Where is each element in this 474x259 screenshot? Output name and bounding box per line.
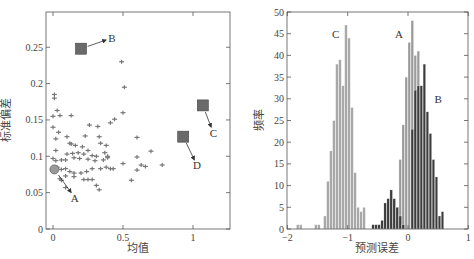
- bar-b: [435, 177, 438, 229]
- x-tick-label: 0: [406, 232, 411, 243]
- y-tick-label: 0.25: [26, 42, 44, 53]
- bar-c: [345, 25, 348, 229]
- bar-b: [414, 90, 417, 229]
- bar-b: [441, 212, 444, 229]
- scatter-points: [51, 60, 165, 192]
- annotation-a: A: [395, 28, 403, 40]
- right-axis-ticks: −2−10105101520253035404550: [274, 7, 471, 244]
- arrow-d: [186, 143, 194, 160]
- arrow-b: [88, 40, 107, 46]
- left-axis-ticks: 00.5100.050.10.150.20.25: [26, 12, 231, 243]
- left-y-axis-label: 标准偏差: [0, 98, 12, 142]
- right-x-axis-label: 预测误差: [355, 241, 399, 254]
- annotation-b: B: [434, 93, 441, 105]
- bar-b: [381, 220, 384, 229]
- arrow-c: [205, 112, 211, 127]
- bar-b: [420, 86, 423, 229]
- label-b: B: [108, 32, 115, 44]
- bar-b: [402, 225, 405, 229]
- y-tick-label: 20: [274, 137, 284, 148]
- bar-c: [324, 216, 327, 229]
- scatter-plot-mean-vs-std: 00.5100.050.10.150.20.25 ABCD 均值 标准偏差: [0, 12, 230, 254]
- bar-b: [438, 216, 441, 229]
- bar-c: [299, 225, 302, 229]
- histogram-bars: [296, 21, 443, 229]
- highlight-point-d: [178, 131, 189, 142]
- bar-c: [315, 225, 318, 229]
- bar-c: [327, 181, 330, 229]
- highlight-point-b: [76, 43, 87, 54]
- label-c: C: [210, 127, 217, 139]
- y-tick-label: 15: [274, 158, 284, 169]
- x-tick-label: 0: [51, 232, 56, 243]
- bar-b: [426, 112, 429, 229]
- bar-c: [336, 64, 339, 229]
- label-d: D: [193, 159, 201, 171]
- histogram-prediction-error: −2−10105101520253035404550 CAB 预测误差 频率: [252, 7, 471, 255]
- y-tick-label: 50: [274, 7, 284, 18]
- bar-c: [296, 225, 299, 229]
- y-tick-label: 5: [279, 202, 284, 213]
- y-tick-label: 0: [279, 224, 284, 235]
- bar-b: [387, 199, 390, 229]
- bar-c: [333, 121, 336, 230]
- annotation-c: C: [332, 28, 339, 40]
- y-tick-label: 25: [274, 115, 284, 126]
- bar-b: [417, 86, 420, 229]
- y-tick-label: 40: [274, 50, 284, 61]
- bar-b: [429, 134, 432, 229]
- bar-b: [390, 190, 393, 229]
- figure-canvas: 00.5100.050.10.150.20.25 ABCD 均值 标准偏差 −2…: [0, 0, 474, 259]
- bar-c: [339, 60, 342, 229]
- bar-a: [408, 42, 411, 229]
- highlighted-points: ABCD: [50, 32, 217, 203]
- bar-b: [423, 64, 426, 229]
- bar-c: [351, 107, 354, 229]
- bar-c: [354, 173, 357, 229]
- arrow-a: [58, 175, 71, 193]
- right-y-axis-label: 频率: [252, 109, 265, 131]
- bar-c: [318, 225, 321, 229]
- bar-c: [342, 86, 345, 229]
- bar-c: [330, 151, 333, 229]
- bar-c: [363, 207, 366, 229]
- highlight-point-c: [197, 100, 208, 111]
- bar-a: [405, 77, 408, 229]
- bar-b: [411, 129, 414, 229]
- y-tick-label: 0.15: [26, 114, 44, 125]
- bar-b: [396, 207, 399, 229]
- right-plot-frame: [287, 12, 468, 229]
- bar-c: [357, 207, 360, 229]
- y-tick-label: 30: [274, 93, 284, 104]
- bar-b: [378, 225, 381, 229]
- y-tick-label: 0.2: [31, 78, 44, 89]
- bar-b: [399, 216, 402, 229]
- bar-b: [384, 203, 387, 229]
- left-x-axis-label: 均值: [127, 242, 149, 254]
- bar-a: [402, 125, 405, 229]
- x-tick-label: 1: [466, 232, 471, 243]
- bar-b: [375, 225, 378, 229]
- y-tick-label: 0.1: [31, 151, 44, 162]
- bar-c: [348, 38, 351, 229]
- y-tick-label: 35: [274, 72, 284, 83]
- y-tick-label: 45: [274, 28, 284, 39]
- label-a: A: [71, 192, 79, 204]
- bar-c: [360, 212, 363, 229]
- y-tick-label: 0: [38, 224, 43, 235]
- bar-b: [372, 225, 375, 229]
- bar-b: [393, 199, 396, 229]
- y-tick-label: 0.05: [26, 187, 44, 198]
- y-tick-label: 10: [274, 180, 284, 191]
- x-tick-label: 1: [191, 232, 196, 243]
- bar-b: [432, 160, 435, 229]
- highlight-point-a: [50, 165, 59, 174]
- x-tick-label: −1: [342, 232, 353, 243]
